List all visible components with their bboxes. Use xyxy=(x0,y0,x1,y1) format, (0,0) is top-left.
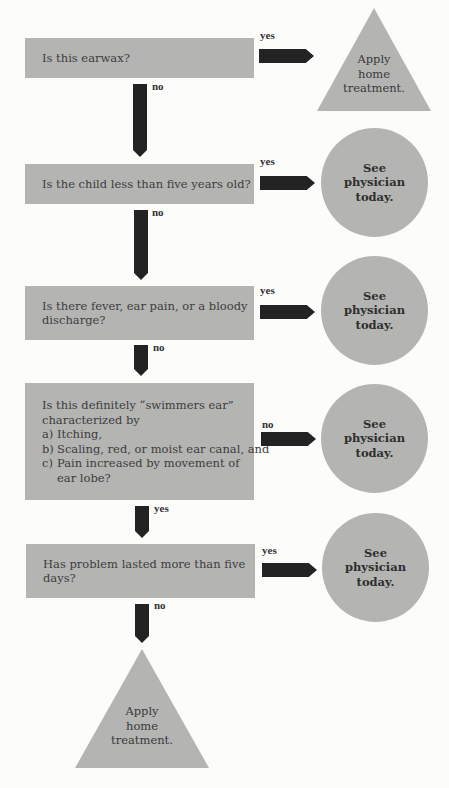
home-treatment-text: Apply home treatment. xyxy=(317,52,431,96)
no-label: no xyxy=(262,418,274,430)
question-text: Has problem lasted more than five xyxy=(43,557,241,572)
right-arrow-icon xyxy=(259,49,314,63)
no-label: no xyxy=(152,206,164,218)
question-box-fever-pain: Is there fever, ear pain, or a bloody di… xyxy=(25,286,254,340)
question-box-child-age: Is the child less than five years old? xyxy=(25,164,254,204)
yes-label: yes xyxy=(260,284,275,296)
criteria-item: b) Scaling, red, or moist ear canal, and xyxy=(42,442,240,457)
yes-label: yes xyxy=(260,29,275,41)
question-text: discharge? xyxy=(42,313,240,328)
question-text: Is this definitely “swimmers ear” xyxy=(42,398,240,413)
down-arrow-icon xyxy=(134,345,148,376)
see-physician-circle: See physician today. xyxy=(321,128,428,237)
see-physician-circle: See physician today. xyxy=(322,513,429,622)
no-label: no xyxy=(153,341,165,353)
no-label: no xyxy=(154,599,166,611)
down-arrow-icon xyxy=(135,604,149,643)
right-arrow-icon xyxy=(260,305,315,319)
yes-label: yes xyxy=(154,502,169,514)
question-text: days? xyxy=(43,571,241,586)
question-text: Is there fever, ear pain, or a bloody xyxy=(42,299,240,314)
right-arrow-icon xyxy=(262,563,317,577)
right-arrow-icon xyxy=(261,432,316,446)
criteria-item: a) Itching, xyxy=(42,427,240,442)
yes-label: yes xyxy=(260,155,275,167)
no-label: no xyxy=(152,80,164,92)
see-physician-circle: See physician today. xyxy=(321,384,428,493)
home-treatment-text: Apply home treatment. xyxy=(75,704,209,748)
question-text: Is this earwax? xyxy=(42,51,240,66)
see-physician-circle: See physician today. xyxy=(321,256,428,365)
down-arrow-icon xyxy=(135,506,149,538)
down-arrow-icon xyxy=(133,84,147,157)
criteria-item: c) Pain increased by movement of xyxy=(42,456,240,471)
question-box-swimmers-ear: Is this definitely “swimmers ear” charac… xyxy=(25,383,254,500)
yes-label: yes xyxy=(262,544,277,556)
right-arrow-icon xyxy=(260,176,315,190)
question-text: Is the child less than five years old? xyxy=(42,177,240,192)
question-box-earwax: Is this earwax? xyxy=(25,38,254,78)
question-box-duration: Has problem lasted more than five days? xyxy=(26,544,255,598)
question-text: characterized by xyxy=(42,413,240,428)
down-arrow-icon xyxy=(134,210,148,280)
criteria-continuation: ear lobe? xyxy=(42,471,240,486)
